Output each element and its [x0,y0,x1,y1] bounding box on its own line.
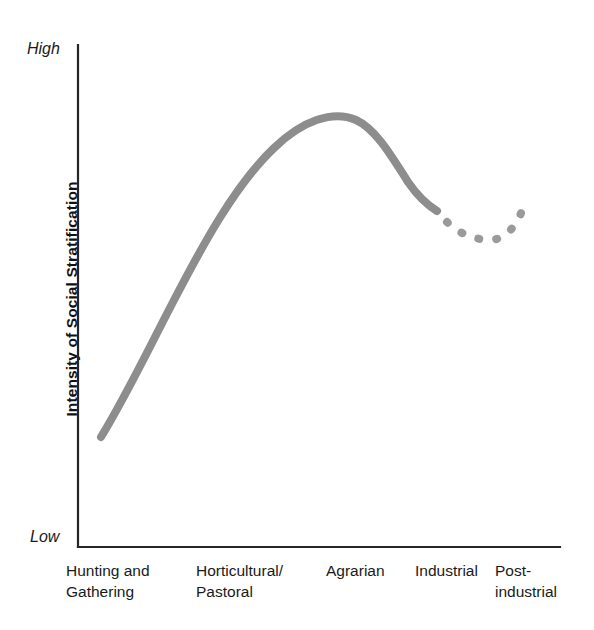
x-tick-label-agrarian: Agrarian [326,560,385,581]
x-tick-label-industrial: Industrial [415,560,478,581]
x-tick-label-horticultural-pastoral: Horticultural/ Pastoral [196,560,283,602]
x-tick-label-hunting-gathering: Hunting and Gathering [66,560,150,602]
stratification-curve-solid [101,116,437,437]
stratification-curve-dashed [447,203,525,240]
x-tick-label-post-industrial: Post- industrial [495,560,557,602]
stratification-chart: High Low Intensity of Social Stratificat… [0,0,594,630]
plot-area [0,0,594,630]
